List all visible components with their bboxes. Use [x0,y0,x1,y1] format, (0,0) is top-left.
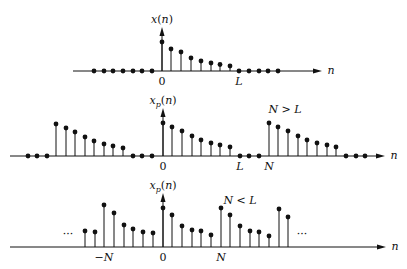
stem-point [276,125,281,130]
stem-point [286,129,291,134]
tick-label-0: 0 [159,75,166,88]
tick-label-L: L [235,160,243,173]
stem-point [296,134,301,139]
stem-point [267,234,272,239]
stem-point [151,231,156,236]
stem-point [189,56,194,61]
stem-point [102,142,107,147]
zero-sample-point [247,69,252,74]
zero-sample-point [266,69,271,74]
y-axis-arrow-icon [160,27,165,36]
zero-sample-point [26,154,31,159]
x-axis-arrow-icon [377,245,386,250]
stem-point [141,230,146,235]
zero-sample-point [237,69,242,74]
zero-sample-point [276,69,281,74]
stem-plots: nx(n)0Lnxp(n)0LNN > Lnxp(n)−N0NN < L····… [0,0,407,269]
stem-point [257,230,262,235]
y-axis-label: x(n) [151,13,173,26]
x-axis-arrow-icon [313,69,322,74]
zero-sample-point [257,154,262,159]
stem-point [315,141,320,146]
stem-point [334,145,339,150]
stem-point [209,233,214,238]
stem-point [218,62,223,67]
tick-label-N: N [215,251,226,264]
zero-sample-point [150,154,155,159]
zero-sample-point [35,154,40,159]
stem-point [161,121,166,126]
stem-point [111,144,116,149]
y-axis-label: xp(n) [149,179,176,194]
annotation: N > L [267,103,301,116]
stem-point [209,141,214,146]
periodic-extension-diagram: nx(n)0Lnxp(n)0LNN > Lnxp(n)−N0NN < L····… [0,0,407,269]
x-axis-label: n [327,64,334,77]
zero-sample-point [354,154,359,159]
stem-point [180,224,185,229]
zero-sample-point [257,69,262,74]
stem-point [83,229,88,234]
tick-label-N: N [263,160,274,173]
stem-point [122,223,127,228]
y-axis-arrow-icon [161,193,166,202]
zero-sample-point [131,69,136,74]
stem-point [190,228,195,233]
stem-point [170,125,175,130]
y-axis-arrow-icon [161,108,166,117]
stem-point [102,203,107,208]
zero-sample-point [344,154,349,159]
tick-label-0: 0 [160,251,167,264]
stem-point [277,207,282,212]
zero-sample-point [131,154,136,159]
zero-sample-point [238,154,243,159]
ellipsis-left: ··· [63,228,74,241]
stem-point [83,135,88,140]
stem-point [305,138,310,143]
zero-sample-point [140,154,145,159]
zero-sample-point [111,69,116,74]
stem-point [325,143,330,148]
stem-point [199,229,204,234]
stem-point [218,143,223,148]
x-axis-label: n [391,240,398,253]
stem-point [267,121,272,126]
tick-label-L: L [234,75,242,88]
tick-label-0: 0 [160,160,167,173]
annotation: N < L [222,194,256,207]
stem-point [169,47,174,52]
zero-sample-point [247,154,252,159]
zero-sample-point [121,69,126,74]
ellipsis-right: ··· [297,228,308,241]
x-axis-label: n [390,149,397,162]
zero-sample-point [92,69,97,74]
tick-label-minus-N: −N [95,251,114,264]
stem-point [238,224,243,229]
zero-sample-point [150,69,155,74]
zero-sample-point [363,154,368,159]
stem-point [131,227,136,232]
stem-point [190,134,195,139]
stem-point [180,129,185,134]
stem-point [64,126,69,131]
stem-point [121,146,126,151]
zero-sample-point [140,69,145,74]
x-axis-arrow-icon [376,154,385,159]
stem-point [112,211,117,216]
stem-point [286,215,291,220]
stem-point [170,213,175,218]
stem-point [92,139,97,144]
stem-point [93,230,98,235]
stem-point [209,61,214,66]
stem-point [199,138,204,143]
stem-point [54,122,59,127]
stem-point [199,59,204,64]
stem-point [228,145,233,150]
stem-point [160,40,165,45]
stem-point [179,50,184,55]
zero-sample-point [45,154,50,159]
stem-point [73,130,78,135]
y-axis-label: xp(n) [149,94,176,109]
stem-point [228,213,233,218]
stem-point [161,206,166,211]
